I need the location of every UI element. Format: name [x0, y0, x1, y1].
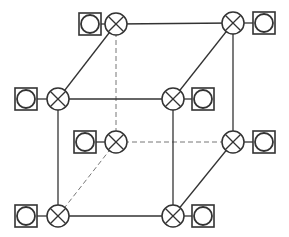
terminal-back-bottom-left: [74, 131, 105, 153]
nodes-layer: [47, 12, 244, 227]
terminal-front-bottom-left: [15, 205, 47, 227]
terminal-back-top-left: [79, 13, 105, 35]
edge-back-top-left-to-back-top-right: [116, 23, 233, 24]
terminal-front-top-left: [15, 88, 47, 110]
terminal-front-top-right: [184, 88, 214, 110]
terminal-back-top-right: [244, 12, 275, 34]
terminal-circle-icon: [17, 207, 35, 225]
terminal-circle-icon: [81, 15, 99, 33]
terminal-circle-icon: [76, 133, 94, 151]
node-back-top-left: [105, 13, 127, 35]
terminal-back-bottom-right: [244, 131, 275, 153]
terminal-front-bottom-right: [184, 205, 214, 227]
terminal-circle-icon: [17, 90, 35, 108]
node-back-bottom-left: [105, 131, 127, 153]
edges-layer: [58, 23, 233, 216]
node-back-top-right: [222, 12, 244, 34]
node-front-top-left: [47, 88, 69, 110]
node-back-bottom-right: [222, 131, 244, 153]
terminal-circle-icon: [194, 207, 212, 225]
terminal-circle-icon: [255, 133, 273, 151]
node-front-bottom-right: [162, 205, 184, 227]
cube-diagram: [0, 0, 289, 237]
terminal-circle-icon: [255, 14, 273, 32]
terminal-circle-icon: [194, 90, 212, 108]
node-front-top-right: [162, 88, 184, 110]
terminals-layer: [15, 12, 275, 227]
node-front-bottom-left: [47, 205, 69, 227]
